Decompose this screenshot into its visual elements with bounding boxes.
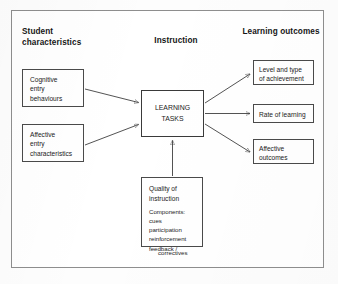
edge-affective-entry-to-learning-tasks [85, 125, 139, 146]
node-learning-tasks: LEARNING TASKS [141, 90, 204, 137]
figure-root: Student characteristics Instruction Lear… [0, 0, 338, 284]
node-label: Quality of instruction [149, 184, 202, 203]
node-quality-of-instruction: Quality of instruction Components: cues … [141, 177, 203, 247]
node-level-and-type-of-achievement: Level and type of achievement [253, 60, 314, 85]
node-label: Affective outcomes [259, 144, 313, 163]
node-affective-entry-characteristics: Affective entry characteristics [22, 124, 84, 162]
node-components-list: Components: cues participation reinforce… [149, 207, 202, 253]
node-label: Level and type of achievement [259, 65, 313, 84]
column-heading-instruction: Instruction [130, 36, 222, 47]
edge-cognitive-entry-to-learning-tasks [85, 89, 139, 103]
node-label: Affective entry characteristics [30, 130, 83, 158]
edge-learning-tasks-to-affective-outcomes [205, 124, 250, 152]
node-label: Cognitive entry behaviours [30, 75, 83, 103]
edge-learning-tasks-to-level-and-type [205, 74, 250, 103]
column-heading-learning-outcomes: Learning outcomes [240, 27, 322, 38]
column-heading-student-characteristics: Student characteristics [22, 27, 112, 48]
node-affective-outcomes: Affective outcomes [253, 139, 314, 164]
node-cognitive-entry-behaviours: Cognitive entry behaviours [22, 69, 84, 107]
node-label: LEARNING TASKS [155, 103, 190, 124]
node-rate-of-learning: Rate of learning [253, 104, 314, 123]
node-label: Rate of learning [259, 110, 313, 119]
node-components-list-tail: correctives [158, 249, 202, 257]
